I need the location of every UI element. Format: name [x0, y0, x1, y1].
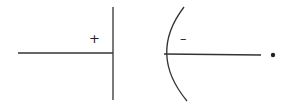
diagram-canvas: + – [0, 0, 290, 105]
plus-label: + [89, 31, 100, 46]
point-dot [271, 53, 275, 57]
minus-label: – [180, 31, 187, 46]
right-axis-line [164, 54, 261, 55]
